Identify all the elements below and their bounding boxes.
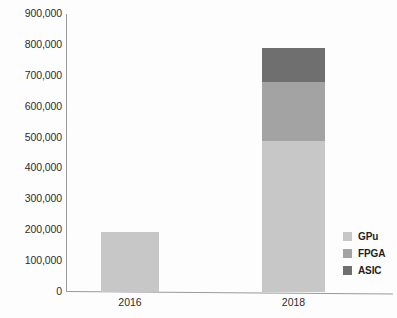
y-axis-tick-label: 700,000 — [2, 69, 62, 81]
y-axis-tick-label: 300,000 — [2, 192, 62, 204]
bar-segment-fpga[interactable] — [262, 82, 325, 141]
legend-swatch-icon — [343, 249, 352, 258]
legend-swatch-icon — [343, 266, 352, 275]
legend-item[interactable]: ASIC — [343, 263, 385, 278]
bar-segment-asic[interactable] — [262, 48, 325, 82]
legend-item[interactable]: FPGA — [343, 246, 385, 261]
bar-chart: 900,000800,000700,000600,000500,000400,0… — [0, 0, 397, 318]
y-axis-tick-label: 0 — [2, 285, 62, 297]
bar-segment-gpu[interactable] — [262, 141, 325, 292]
y-axis-tick-label: 600,000 — [2, 100, 62, 112]
y-axis-tick-label: 800,000 — [2, 38, 62, 50]
y-axis-tick-label: 100,000 — [2, 254, 62, 266]
y-axis-tick-label: 400,000 — [2, 161, 62, 173]
y-axis-tick-label: 200,000 — [2, 223, 62, 235]
bar-group[interactable] — [262, 48, 325, 292]
y-axis-tick-label: 900,000 — [2, 7, 62, 19]
legend-item-label: GPu — [358, 231, 378, 242]
x-axis-tick-label: 2018 — [264, 296, 324, 308]
x-axis-tick-label: 2016 — [100, 296, 160, 308]
bar-segment-gpu[interactable] — [101, 232, 159, 292]
legend-item[interactable]: GPu — [343, 229, 385, 244]
legend-item-label: ASIC — [358, 265, 382, 276]
y-axis-tick-label: 500,000 — [2, 131, 62, 143]
legend-item-label: FPGA — [358, 248, 385, 259]
y-axis-tick-labels: 900,000800,000700,000600,000500,000400,0… — [0, 0, 62, 318]
legend: GPuFPGAASIC — [343, 229, 385, 280]
bar-group[interactable] — [101, 232, 159, 292]
legend-swatch-icon — [343, 232, 352, 241]
